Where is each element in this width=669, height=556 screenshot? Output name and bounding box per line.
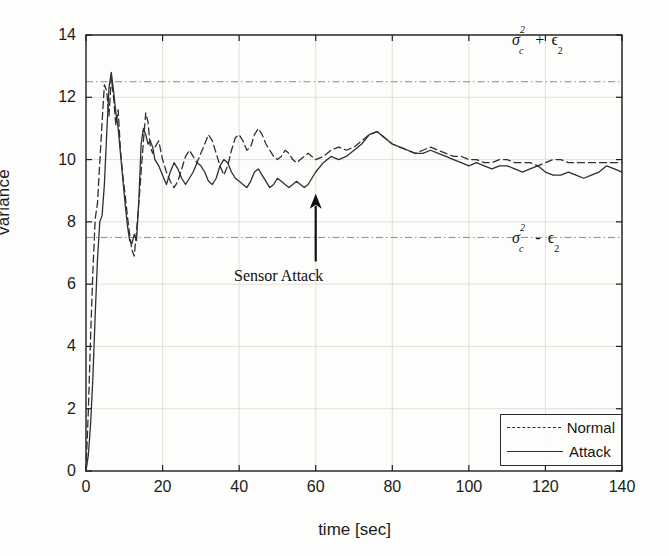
y-tick-label: 4: [42, 337, 76, 355]
x-tick-label: 140: [609, 478, 636, 496]
legend-swatch-normal: [507, 427, 561, 428]
y-tick-label: 6: [42, 275, 76, 293]
y-tick-label: 12: [42, 88, 76, 106]
sensor-attack-annotation: Sensor Attack: [234, 267, 323, 285]
chart-legend: Normal Attack: [500, 414, 622, 466]
series-line-attack: [86, 72, 622, 471]
x-tick-label: 60: [307, 478, 325, 496]
x-tick-label: 80: [383, 478, 401, 496]
legend-item-normal: Normal: [501, 415, 621, 439]
y-tick-label: 0: [42, 462, 76, 480]
y-tick-label: 8: [42, 213, 76, 231]
x-tick-label: 20: [154, 478, 172, 496]
x-tick-label: 120: [532, 478, 559, 496]
threshold-lower-annotation: σ2c - ϵ2: [512, 228, 559, 250]
y-axis-label: variance: [0, 169, 14, 235]
x-tick-label: 100: [455, 478, 482, 496]
variance-line-chart: [0, 0, 669, 556]
y-tick-label: 2: [42, 400, 76, 418]
legend-swatch-attack: [507, 451, 563, 452]
legend-label-attack: Attack: [569, 443, 611, 460]
x-tick-label: 40: [230, 478, 248, 496]
legend-label-normal: Normal: [567, 419, 615, 436]
y-tick-label: 10: [42, 151, 76, 169]
y-tick-label: 14: [42, 26, 76, 44]
threshold-upper-annotation: σ2c + ϵ2: [512, 30, 563, 52]
figure-canvas: variance time [sec] σ2c + ϵ2 σ2c - ϵ2 Se…: [0, 0, 669, 556]
series-line-normal: [86, 79, 622, 471]
plot-frame: [86, 35, 622, 471]
x-axis-label: time [sec]: [0, 520, 669, 540]
legend-item-attack: Attack: [501, 439, 621, 463]
x-tick-label: 0: [82, 478, 91, 496]
